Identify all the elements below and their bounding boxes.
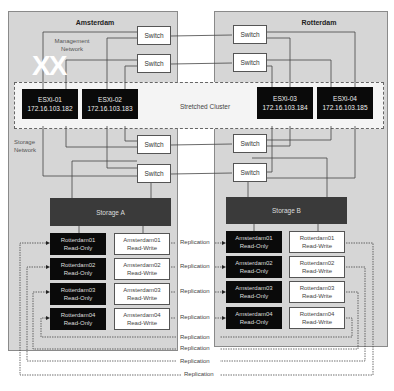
volume-rotterdam03-ro-a[interactable]: Rotterdam03Read-Only	[50, 283, 106, 305]
watermark: XX	[32, 50, 65, 82]
replication-label-reverse-3: Replication	[179, 358, 211, 364]
volume-amsterdam03-ro-b[interactable]: Amsterdam03Read-Only	[226, 281, 282, 303]
storage-network-label: Storage Network	[14, 138, 50, 154]
replication-label-forward-1: Replication	[179, 239, 211, 245]
replication-label-forward-2: Replication	[179, 263, 211, 269]
replication-label-reverse-4: Replication	[183, 371, 215, 377]
volume-rotterdam01-rw[interactable]: Rotterdam01Read-Write	[289, 231, 345, 253]
host-name: ESXi-04	[333, 94, 357, 103]
host-name: ESXi-02	[98, 95, 122, 104]
replication-label-forward-3: Replication	[179, 288, 211, 294]
storage-a[interactable]: Storage A	[50, 198, 171, 226]
host-esxi-04[interactable]: ESXi-04 172.16.103.185	[317, 87, 373, 119]
volume-amsterdam01-ro-b[interactable]: Amsterdam01Read-Only	[226, 231, 282, 253]
replication-label-forward-4: Replication	[179, 314, 211, 320]
replication-label-reverse-2: Replication	[179, 345, 211, 351]
switch-amsterdam-storage-2[interactable]: Switch	[137, 164, 171, 183]
volume-amsterdam04-rw[interactable]: Amsterdam04Read-Write	[114, 308, 170, 330]
switch-rotterdam-storage-2[interactable]: Switch	[233, 163, 267, 182]
volume-rotterdam03-rw[interactable]: Rotterdam03Read-Write	[289, 281, 345, 303]
volume-rotterdam04-rw[interactable]: Rotterdam04Read-Write	[289, 307, 345, 329]
host-ip: 172.16.103.182	[27, 104, 72, 113]
volume-amsterdam02-rw[interactable]: Amsterdam02Read-Write	[114, 258, 170, 280]
switch-rotterdam-mgmt-2[interactable]: Switch	[233, 53, 267, 72]
switch-amsterdam-storage-1[interactable]: Switch	[137, 135, 171, 154]
volume-amsterdam01-rw[interactable]: Amsterdam01Read-Write	[114, 233, 170, 255]
site-title-amsterdam: Amsterdam	[60, 19, 130, 26]
host-name: ESXi-01	[38, 95, 62, 104]
volume-amsterdam04-ro-b[interactable]: Amsterdam04Read-Only	[226, 307, 282, 329]
volume-amsterdam03-rw[interactable]: Amsterdam03Read-Write	[114, 283, 170, 305]
site-title-rotterdam: Rotterdam	[284, 19, 354, 26]
host-esxi-02[interactable]: ESXi-02 172.16.103.183	[82, 89, 138, 119]
volume-amsterdam02-ro-b[interactable]: Amsterdam02Read-Only	[226, 256, 282, 278]
switch-rotterdam-storage-1[interactable]: Switch	[233, 134, 267, 153]
stretched-cluster-label: Stretched Cluster	[150, 103, 260, 110]
host-ip: 172.16.103.184	[262, 103, 307, 112]
switch-rotterdam-mgmt-1[interactable]: Switch	[233, 25, 267, 44]
host-ip: 172.16.103.185	[322, 103, 367, 112]
host-name: ESXi-03	[273, 94, 297, 103]
volume-rotterdam04-ro-a[interactable]: Rotterdam04Read-Only	[50, 308, 106, 330]
host-esxi-01[interactable]: ESXi-01 172.16.103.182	[22, 89, 78, 119]
storage-b[interactable]: Storage B	[226, 197, 347, 224]
replication-label-reverse-1: Replication	[179, 334, 211, 340]
host-ip: 172.16.103.183	[87, 104, 132, 113]
volume-rotterdam01-ro-a[interactable]: Rotterdam01Read-Only	[50, 233, 106, 255]
switch-amsterdam-mgmt-2[interactable]: Switch	[137, 54, 171, 73]
switch-amsterdam-mgmt-1[interactable]: Switch	[137, 26, 171, 45]
host-esxi-03[interactable]: ESXi-03 172.16.103.184	[257, 87, 313, 119]
volume-rotterdam02-ro-a[interactable]: Rotterdam02Read-Only	[50, 258, 106, 280]
volume-rotterdam02-rw[interactable]: Rotterdam02Read-Write	[289, 256, 345, 278]
